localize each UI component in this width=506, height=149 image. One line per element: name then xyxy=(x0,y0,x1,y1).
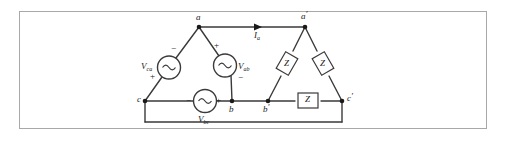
source-ca-label: Vca xyxy=(141,62,152,71)
prime-mark-c: ′ xyxy=(351,91,353,101)
source-symbols xyxy=(158,54,237,113)
node-label-a: a xyxy=(196,13,201,22)
source-bc-minus-terminal: − xyxy=(186,96,191,105)
node-dot-b xyxy=(230,99,235,104)
source-ab-subscript: ab xyxy=(244,66,250,72)
wire-a-to-source-ca xyxy=(176,27,199,58)
node-label-b: b xyxy=(229,105,234,114)
source-ab-label: Vab xyxy=(238,62,250,71)
wire-aprime-to-z2 xyxy=(305,27,317,51)
source-bc-plus-terminal: + xyxy=(216,96,221,105)
source-ca-plus-terminal: + xyxy=(150,72,155,81)
circuit-figure: a b c a′ b′ c′ Vca − + Vab + − Vbc − + Z… xyxy=(0,0,506,149)
source-ab-plus-terminal: + xyxy=(214,41,219,50)
wire-aprime-to-z1 xyxy=(293,27,305,51)
impedance-a-b-label: Z xyxy=(284,59,289,68)
node-label-a-prime: a′ xyxy=(301,12,307,21)
source-ab-minus-terminal: − xyxy=(238,73,243,82)
wire-z2-to-cprime xyxy=(329,76,342,101)
node-label-c-prime: c′ xyxy=(347,94,353,103)
source-bc-symbol: V xyxy=(198,114,204,124)
wire-source-ab-to-b xyxy=(231,75,232,101)
source-ab-symbol: V xyxy=(238,61,244,71)
current-label-ia: Ia xyxy=(254,31,260,40)
node-dot-a xyxy=(197,25,202,30)
node-label-b-prime-base: b xyxy=(263,104,268,114)
source-bc-subscript: bc xyxy=(204,119,210,125)
node-label-a-prime-base: a xyxy=(301,11,306,21)
node-dot-a-prime xyxy=(303,25,308,30)
current-subscript: a xyxy=(257,35,260,41)
node-dot-c xyxy=(143,99,148,104)
source-bc-label: Vbc xyxy=(198,115,209,124)
source-ca-symbol: V xyxy=(141,61,147,71)
impedance-b-c-label: Z xyxy=(305,95,310,104)
node-label-c: c xyxy=(137,95,141,104)
node-label-b-prime: b′ xyxy=(263,105,269,114)
wire-z1-to-bprime xyxy=(268,76,281,101)
circuit-schematic xyxy=(0,0,506,149)
source-ca-minus-terminal: − xyxy=(171,44,176,53)
node-dot-c-prime xyxy=(340,99,345,104)
impedance-a-c-label: Z xyxy=(320,59,325,68)
